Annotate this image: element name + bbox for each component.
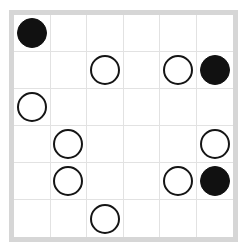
cell-r3-c5[interactable] <box>197 126 234 163</box>
white-circle-icon <box>53 166 83 196</box>
cell-r3-c1[interactable] <box>51 126 88 163</box>
cell-r5-c0[interactable] <box>14 200 51 237</box>
puzzle-root <box>0 0 247 251</box>
cell-r2-c1[interactable] <box>51 89 88 126</box>
white-circle-icon <box>90 204 120 234</box>
cell-r3-c2[interactable] <box>87 126 124 163</box>
cell-r2-c2[interactable] <box>87 89 124 126</box>
cell-r2-c3[interactable] <box>124 89 161 126</box>
cell-r3-c4[interactable] <box>160 126 197 163</box>
cell-r1-c4[interactable] <box>160 52 197 89</box>
white-circle-icon <box>163 55 193 85</box>
board-frame <box>9 10 238 242</box>
cell-r5-c2[interactable] <box>87 200 124 237</box>
puzzle-grid[interactable] <box>14 15 233 237</box>
black-circle-icon <box>17 18 47 48</box>
black-circle-icon <box>200 55 230 85</box>
cell-r5-c4[interactable] <box>160 200 197 237</box>
cell-r4-c3[interactable] <box>124 163 161 200</box>
cell-r0-c2[interactable] <box>87 15 124 52</box>
cell-r4-c4[interactable] <box>160 163 197 200</box>
cell-r4-c2[interactable] <box>87 163 124 200</box>
cell-r5-c1[interactable] <box>51 200 88 237</box>
white-circle-icon <box>90 55 120 85</box>
cell-r1-c2[interactable] <box>87 52 124 89</box>
cell-r1-c1[interactable] <box>51 52 88 89</box>
white-circle-icon <box>53 129 83 159</box>
cell-r2-c5[interactable] <box>197 89 234 126</box>
cell-r4-c1[interactable] <box>51 163 88 200</box>
cell-r5-c5[interactable] <box>197 200 234 237</box>
cell-r1-c0[interactable] <box>14 52 51 89</box>
cell-r0-c3[interactable] <box>124 15 161 52</box>
cell-r1-c3[interactable] <box>124 52 161 89</box>
cell-r4-c0[interactable] <box>14 163 51 200</box>
cell-r3-c3[interactable] <box>124 126 161 163</box>
white-circle-icon <box>163 166 193 196</box>
cell-r2-c0[interactable] <box>14 89 51 126</box>
cell-r4-c5[interactable] <box>197 163 234 200</box>
cell-r2-c4[interactable] <box>160 89 197 126</box>
cell-r0-c0[interactable] <box>14 15 51 52</box>
cell-r1-c5[interactable] <box>197 52 234 89</box>
cell-r0-c5[interactable] <box>197 15 234 52</box>
white-circle-icon <box>200 129 230 159</box>
cell-r3-c0[interactable] <box>14 126 51 163</box>
white-circle-icon <box>17 92 47 122</box>
black-circle-icon <box>200 166 230 196</box>
cell-r0-c1[interactable] <box>51 15 88 52</box>
cell-r5-c3[interactable] <box>124 200 161 237</box>
cell-r0-c4[interactable] <box>160 15 197 52</box>
